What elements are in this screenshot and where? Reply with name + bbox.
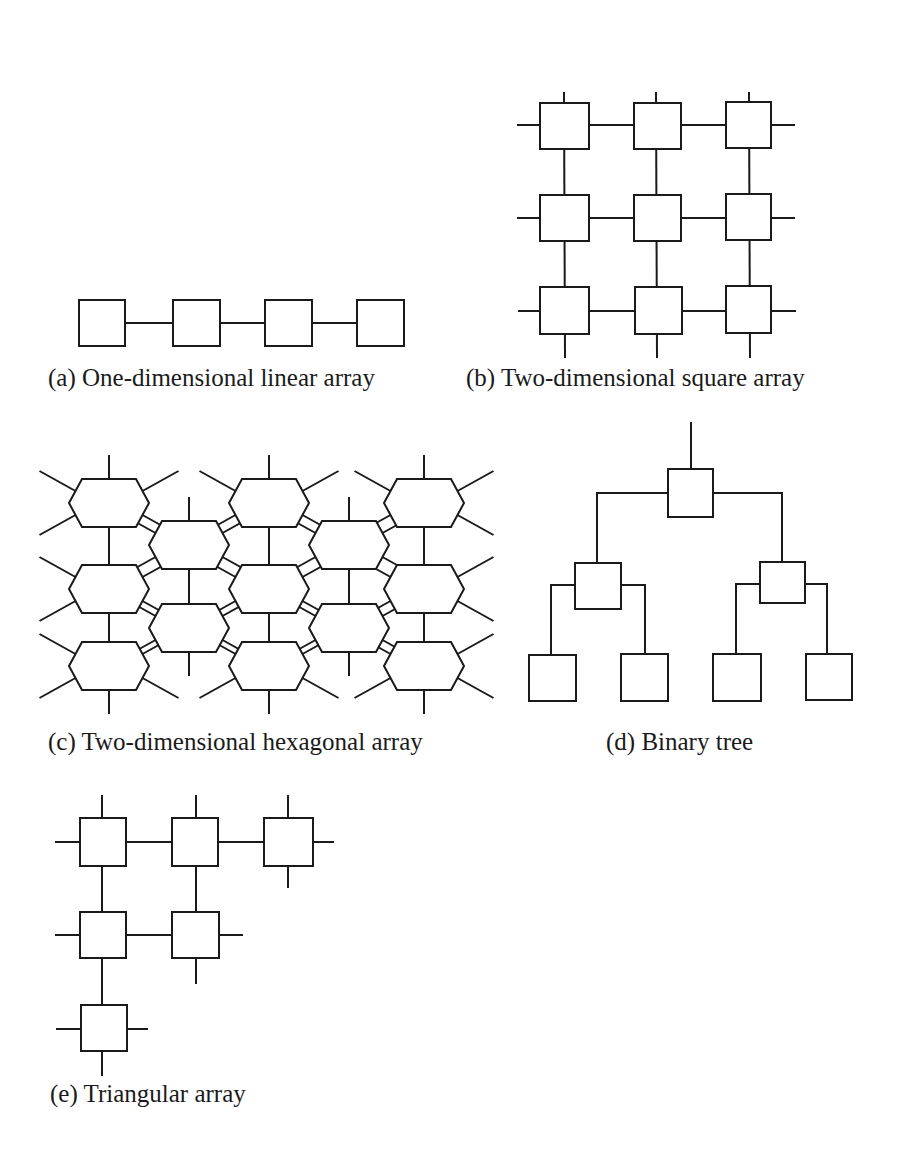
tree-leaf-node	[621, 654, 668, 701]
caption-hexagonal-array: (c) Two-dimensional hexagonal array	[48, 728, 423, 756]
processor-node	[80, 912, 126, 958]
panel-a-linear-array	[79, 300, 404, 346]
hexagonal-processor-node	[149, 604, 229, 652]
caption-triangular-array: (e) Triangular array	[50, 1080, 246, 1108]
processor-node	[79, 300, 125, 346]
processor-node	[635, 287, 682, 334]
processor-node	[80, 818, 126, 866]
hexagonal-processor-node	[69, 565, 149, 613]
hexagonal-processor-node	[229, 642, 309, 690]
tree-internal-node	[760, 562, 805, 603]
panel-e-triangular-array	[55, 795, 334, 1076]
hexagonal-processor-node	[229, 565, 309, 613]
caption-binary-tree: (d) Binary tree	[606, 728, 753, 756]
processor-node	[357, 300, 404, 346]
processor-node	[726, 102, 771, 148]
tree-leaf-node	[713, 654, 761, 701]
hexagonal-processor-node	[309, 604, 389, 652]
caption-linear-array: (a) One-dimensional linear array	[48, 364, 375, 392]
processor-node	[81, 1005, 127, 1051]
processor-node	[265, 300, 312, 346]
processor-node	[172, 818, 218, 866]
hexagonal-processor-node	[384, 565, 464, 613]
hexagonal-processor-node	[384, 642, 464, 690]
processor-node	[173, 300, 220, 346]
processor-node	[172, 912, 219, 958]
hexagonal-processor-node	[149, 521, 229, 569]
processor-node	[540, 287, 589, 334]
hexagonal-processor-node	[69, 642, 149, 690]
tree-internal-node	[575, 563, 621, 609]
hexagonal-processor-node	[384, 479, 464, 527]
panel-b-square-array	[517, 92, 796, 358]
interconnection-topologies-figure	[0, 0, 907, 1152]
hexagonal-processor-node	[309, 521, 389, 569]
hexagonal-processor-node	[229, 479, 309, 527]
processor-node	[264, 818, 313, 866]
tree-leaf-node	[529, 655, 576, 701]
processor-node	[634, 195, 681, 241]
hexagonal-processor-node	[69, 479, 149, 527]
panel-c-hexagonal-array	[40, 455, 494, 714]
tree-leaf-node	[806, 654, 852, 700]
processor-node	[634, 103, 681, 149]
processor-node	[726, 286, 771, 333]
processor-node	[540, 103, 589, 149]
processor-node	[540, 195, 589, 241]
panel-d-binary-tree	[529, 422, 852, 701]
tree-root-node	[668, 469, 713, 517]
caption-square-array: (b) Two-dimensional square array	[466, 364, 805, 392]
processor-node	[726, 194, 771, 240]
